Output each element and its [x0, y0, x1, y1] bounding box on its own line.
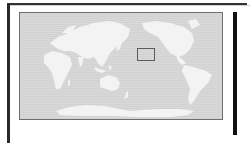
world-map-overview[interactable]: [19, 12, 223, 120]
adjacent-panel-edge: [233, 12, 237, 135]
frame-divider: [10, 5, 237, 6]
world-map-graphic: [20, 13, 222, 119]
viewport-selection-box[interactable]: [137, 48, 155, 61]
